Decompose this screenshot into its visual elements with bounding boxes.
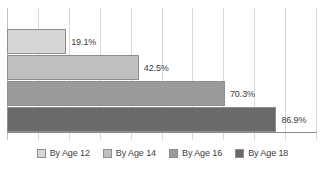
bar-value-label: 86.9%: [281, 115, 306, 125]
legend-item-by-age-14[interactable]: By Age 14: [103, 148, 156, 158]
legend-swatch-icon: [103, 149, 112, 158]
legend-label: By Age 16: [182, 148, 222, 158]
legend-swatch-icon: [37, 149, 46, 158]
legend-label: By Age 12: [50, 148, 90, 158]
bar-value-label: 19.1%: [71, 37, 96, 47]
bar-value-label: 70.3%: [230, 89, 255, 99]
legend-item-by-age-12[interactable]: By Age 12: [37, 148, 90, 158]
legend-label: By Age 14: [116, 148, 156, 158]
bar-row: 42.5%: [7, 55, 317, 80]
chart-legend: By Age 12By Age 14By Age 16By Age 18: [0, 148, 325, 158]
bar-by-age-12[interactable]: [7, 29, 66, 54]
legend-label: By Age 18: [248, 148, 288, 158]
bar-chart: 19.1%42.5%70.3%86.9% By Age 12By Age 14B…: [0, 0, 325, 172]
bar-row: 19.1%: [7, 29, 317, 54]
legend-swatch-icon: [169, 149, 178, 158]
legend-item-by-age-18[interactable]: By Age 18: [235, 148, 288, 158]
legend-swatch-icon: [235, 149, 244, 158]
bar-by-age-14[interactable]: [7, 55, 139, 80]
bar-row: 70.3%: [7, 81, 317, 106]
bar-row: 86.9%: [7, 107, 317, 132]
bars-layer: 19.1%42.5%70.3%86.9%: [7, 29, 317, 132]
bar-value-label: 42.5%: [144, 63, 169, 73]
legend-item-by-age-16[interactable]: By Age 16: [169, 148, 222, 158]
bar-by-age-18[interactable]: [7, 107, 276, 132]
bar-by-age-16[interactable]: [7, 81, 225, 106]
axis-baseline: [7, 132, 317, 133]
